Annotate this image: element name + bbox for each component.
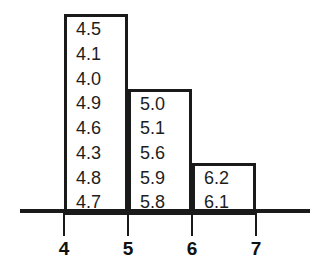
- x-axis-tick-label: 6: [172, 238, 212, 260]
- bar-data-value: 4.8: [67, 166, 101, 191]
- bar-data-value: 5.1: [131, 116, 165, 141]
- histogram-bar: 6.26.1: [192, 163, 256, 215]
- histogram-chart: 4.54.14.04.94.64.34.84.75.05.15.65.95.86…: [0, 0, 323, 275]
- histogram-bar: 5.05.15.65.95.8: [128, 89, 192, 216]
- x-axis-tick-mark: [191, 212, 193, 236]
- bar-data-value: 4.3: [67, 141, 101, 166]
- x-axis-tick-label: 7: [236, 238, 276, 260]
- bar-data-value: 4.6: [67, 116, 101, 141]
- bar-data-value: 4.1: [67, 42, 101, 67]
- bar-data-value: 5.9: [131, 166, 165, 191]
- x-axis-tick-mark: [127, 212, 129, 236]
- bar-data-value: 6.2: [195, 166, 229, 191]
- x-axis-tick-label: 4: [44, 238, 84, 260]
- bar-data-value: 5.6: [131, 141, 165, 166]
- x-axis-tick-mark: [63, 212, 65, 236]
- bar-data-value: 5.0: [131, 92, 165, 117]
- bar-data-value: 4.5: [67, 17, 101, 42]
- bar-data-value: 4.0: [67, 67, 101, 92]
- x-axis-tick-label: 5: [108, 238, 148, 260]
- histogram-bar: 4.54.14.04.94.64.34.84.7: [64, 14, 128, 215]
- bar-data-value: 4.9: [67, 91, 101, 116]
- x-axis-tick-mark: [255, 212, 257, 236]
